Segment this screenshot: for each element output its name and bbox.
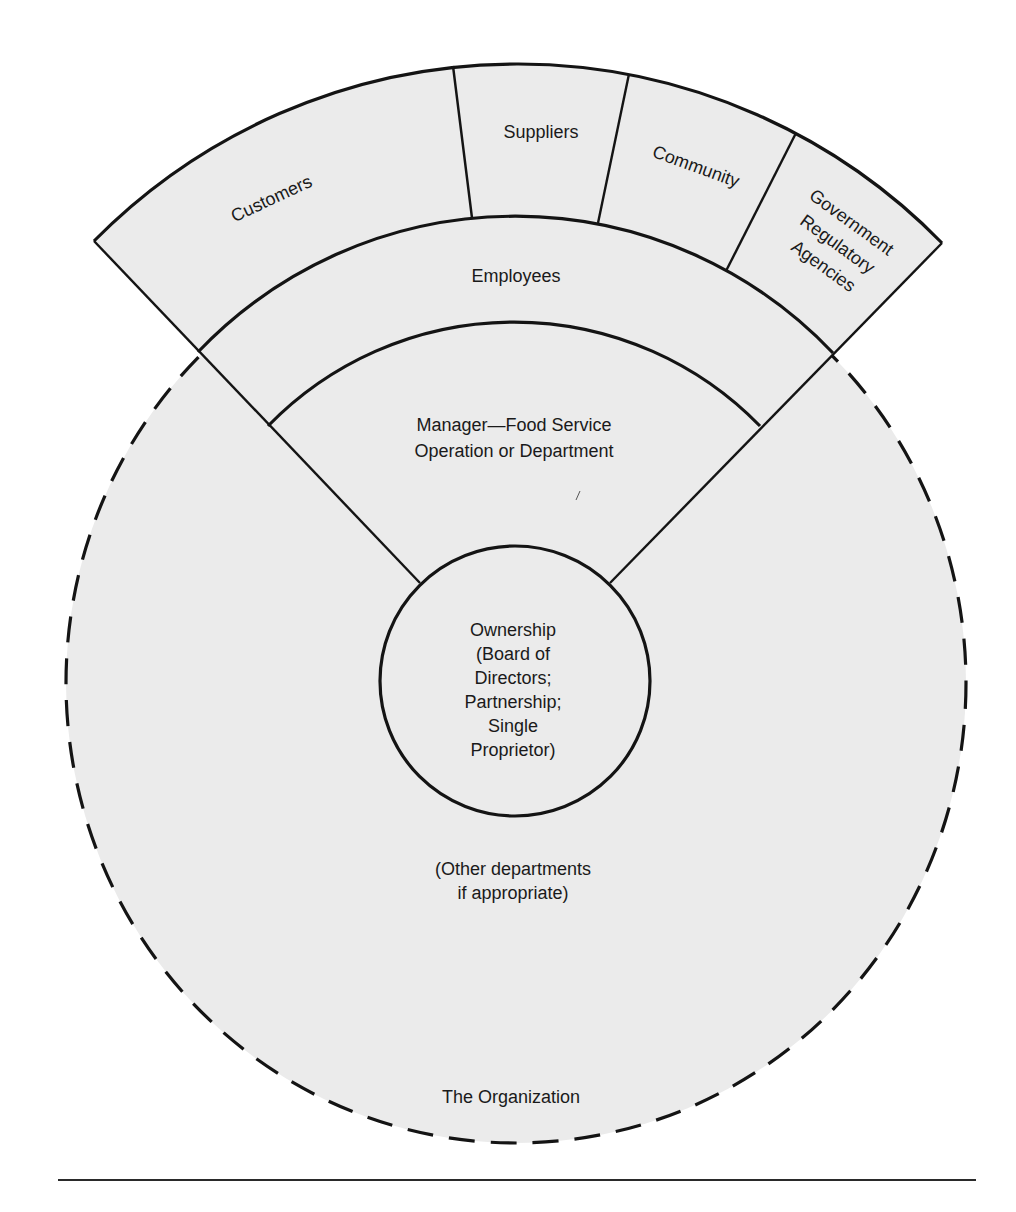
label-manager-line2: Operation or Department [414,441,613,461]
label-other-departments-line2: if appropriate) [457,883,568,903]
label-ownership-line3: Directors; [474,668,551,688]
label-ownership-line6: Proprietor) [470,740,555,760]
label-ownership-line5: Single [488,716,538,736]
label-employees: Employees [471,266,560,286]
label-other-departments-line1: (Other departments [435,859,591,879]
label-suppliers: Suppliers [503,122,578,142]
label-organization: The Organization [442,1087,580,1107]
label-ownership-line2: (Board of [476,644,551,664]
label-ownership-line4: Partnership; [464,692,561,712]
label-ownership-line1: Ownership [470,620,556,640]
label-manager-line1: Manager—Food Service [416,415,611,435]
stakeholder-diagram: Customers Suppliers Community Government… [0,0,1016,1212]
